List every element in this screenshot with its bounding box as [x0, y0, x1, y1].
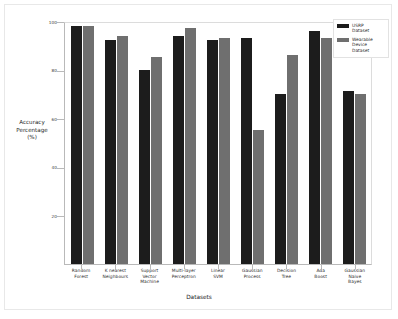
chart-figure: AccuracyPercentage(%) Datasets 204060801…	[0, 0, 398, 319]
y-axis-title-line: Percentage	[6, 127, 58, 135]
legend-label: USRPDataset	[352, 23, 369, 34]
bar-usrp	[173, 36, 184, 264]
y-tick-mark	[57, 119, 64, 120]
bar-usrp	[241, 38, 252, 264]
bar-wearable	[117, 36, 128, 264]
bar-wearable	[151, 57, 162, 264]
bar-wearable	[355, 94, 366, 264]
x-tick-label-line: Machine	[127, 279, 173, 285]
bar-usrp	[275, 94, 286, 264]
bar-group	[133, 23, 167, 264]
bar-group	[99, 23, 133, 264]
x-tick-label-line: Bayes	[332, 279, 378, 285]
y-axis-title: AccuracyPercentage(%)	[6, 119, 58, 142]
bar-wearable	[253, 130, 264, 264]
y-tick-label: 20	[31, 214, 57, 219]
legend-swatch-icon	[337, 38, 349, 42]
legend-label-line: Dataset	[352, 48, 373, 53]
chart-legend: USRPDatasetWearableDeviceDataset	[333, 19, 389, 58]
y-tick-mark	[57, 216, 64, 217]
y-axis-title-line: (%)	[6, 134, 58, 142]
legend-item[interactable]: USRPDataset	[337, 23, 385, 34]
x-tick-label: GaussianNaiveBayes	[332, 268, 378, 285]
bar-wearable	[185, 28, 196, 264]
bar-group	[65, 23, 99, 264]
bar-usrp	[207, 40, 218, 264]
bar-wearable	[219, 38, 230, 264]
bar-wearable	[321, 38, 332, 264]
bar-usrp	[139, 70, 150, 264]
bar-wearable	[287, 55, 298, 264]
bar-group	[167, 23, 201, 264]
bar-usrp	[343, 91, 354, 264]
bar-usrp	[71, 26, 82, 264]
bar-group	[337, 23, 371, 264]
bar-group	[235, 23, 269, 264]
y-tick-label: 80	[31, 68, 57, 73]
bar-groups	[65, 23, 371, 264]
bar-group	[303, 23, 337, 264]
legend-swatch-icon	[337, 24, 349, 28]
y-tick-label: 40	[31, 165, 57, 170]
bar-wearable	[83, 26, 94, 264]
y-tick-mark	[57, 71, 64, 72]
y-tick-mark	[57, 22, 64, 23]
bar-usrp	[105, 40, 116, 264]
legend-label: WearableDeviceDataset	[352, 37, 373, 53]
plot-area	[64, 22, 372, 265]
x-axis-title: Datasets	[149, 294, 249, 300]
y-tick-label: 100	[31, 20, 57, 25]
y-tick-label: 60	[31, 117, 57, 122]
bar-group	[201, 23, 235, 264]
legend-label-line: Dataset	[352, 28, 369, 33]
legend-item[interactable]: WearableDeviceDataset	[337, 37, 385, 53]
bar-group	[269, 23, 303, 264]
bar-usrp	[309, 31, 320, 264]
y-tick-mark	[57, 168, 64, 169]
